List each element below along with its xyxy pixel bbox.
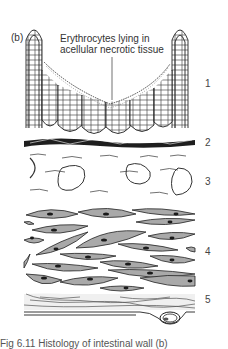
- figure-caption: Fig 6.11 Histology of intestinal wall (b…: [0, 338, 228, 349]
- layer-number-5: 5: [205, 294, 211, 305]
- muscularis-mucosae-layer: [24, 139, 195, 148]
- layer-number-3: 3: [205, 176, 211, 187]
- layer-number-2: 2: [205, 137, 211, 148]
- serosa-layer: [24, 293, 195, 324]
- layer-number-4: 4: [205, 246, 211, 257]
- submucosa-layer: [30, 154, 192, 195]
- annotation-line-2: acellular necrotic tissue: [60, 44, 164, 55]
- annotation-line-1: Erythrocytes lying in: [60, 33, 164, 44]
- panel-label: (b): [11, 32, 23, 43]
- layer-number-1: 1: [205, 78, 211, 89]
- erythrocytes-annotation: Erythrocytes lying in acellular necrotic…: [60, 33, 164, 55]
